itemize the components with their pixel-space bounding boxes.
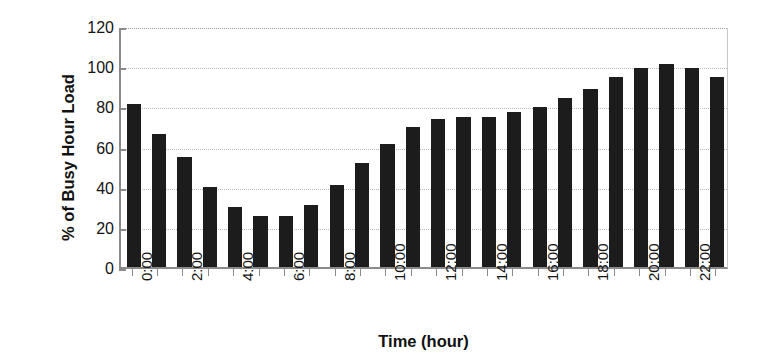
y-axis-tick-mark bbox=[119, 269, 126, 271]
bar bbox=[558, 98, 572, 267]
x-axis-tick-label: 18:00 bbox=[594, 243, 611, 281]
x-axis-tick-mark bbox=[259, 269, 260, 276]
bars-container bbox=[121, 28, 727, 267]
x-axis-tick-label: 4:00 bbox=[239, 252, 256, 281]
x-axis-tick-mark bbox=[360, 269, 361, 276]
y-axis-tick-label: 60 bbox=[62, 140, 114, 158]
x-axis-tick-mark bbox=[385, 269, 386, 276]
bar bbox=[634, 68, 648, 267]
x-axis-tick-mark bbox=[563, 269, 564, 276]
x-axis-tick-mark bbox=[639, 269, 640, 276]
x-axis-tick-mark bbox=[588, 269, 589, 276]
plot-area bbox=[119, 28, 728, 269]
x-axis-tick-mark bbox=[487, 269, 488, 276]
bar bbox=[583, 89, 597, 267]
x-axis-tick-mark bbox=[284, 269, 285, 276]
x-axis-tick-mark bbox=[309, 269, 310, 276]
bar bbox=[659, 64, 673, 267]
bar bbox=[710, 77, 724, 267]
x-axis-tick-label: 6:00 bbox=[290, 252, 307, 281]
bar bbox=[152, 134, 166, 267]
y-axis-tick-mark bbox=[119, 28, 126, 30]
x-axis-tick-mark bbox=[411, 269, 412, 276]
bar bbox=[127, 104, 141, 267]
x-axis-tick-label: 16:00 bbox=[544, 243, 561, 281]
x-axis-tick-mark bbox=[462, 269, 463, 276]
x-axis-tick-mark bbox=[132, 269, 133, 276]
x-axis-tick-mark bbox=[614, 269, 615, 276]
x-axis-tick-mark bbox=[665, 269, 666, 276]
y-axis-tick-label: 80 bbox=[62, 99, 114, 117]
x-axis-tick-mark bbox=[436, 269, 437, 276]
x-axis-title: Time (hour) bbox=[119, 332, 728, 351]
x-axis-tick-label: 22:00 bbox=[696, 243, 713, 281]
x-axis-tick-label: 8:00 bbox=[341, 252, 358, 281]
x-axis-tick-label: 14:00 bbox=[493, 243, 510, 281]
x-axis-tick-label: 12:00 bbox=[442, 243, 459, 281]
y-axis-tick-mark bbox=[119, 108, 126, 110]
x-axis-tick-mark bbox=[690, 269, 691, 276]
x-axis-tick-label: 2:00 bbox=[188, 252, 205, 281]
y-axis-tick-label: 40 bbox=[62, 180, 114, 198]
x-axis-tick-label: 10:00 bbox=[391, 243, 408, 281]
y-axis-tick-label: 100 bbox=[62, 59, 114, 77]
x-axis-tick-mark bbox=[715, 269, 716, 276]
x-axis-tick-mark bbox=[208, 269, 209, 276]
y-axis-tick-mark bbox=[119, 189, 126, 191]
y-axis-tick-labels: 020406080100120 bbox=[58, 28, 114, 269]
y-axis-tick-mark bbox=[119, 149, 126, 151]
x-axis-tick-mark bbox=[182, 269, 183, 276]
x-axis-tick-mark bbox=[157, 269, 158, 276]
bar bbox=[609, 77, 623, 267]
bar bbox=[177, 157, 191, 267]
y-axis-tick-label: 20 bbox=[62, 220, 114, 238]
y-axis-tick-mark bbox=[119, 68, 126, 70]
x-axis-tick-label: 0:00 bbox=[138, 252, 155, 281]
bar bbox=[685, 68, 699, 267]
bar-chart: % of Busy Hour Load 020406080100120 0:00… bbox=[0, 0, 765, 363]
x-axis-tick-mark bbox=[233, 269, 234, 276]
y-axis-tick-mark bbox=[119, 229, 126, 231]
x-axis-tick-mark bbox=[538, 269, 539, 276]
x-axis-tick-mark bbox=[512, 269, 513, 276]
x-axis-tick-mark bbox=[335, 269, 336, 276]
x-axis-tick-label: 20:00 bbox=[645, 243, 662, 281]
y-axis-tick-label: 120 bbox=[62, 19, 114, 37]
y-axis-tick-label: 0 bbox=[62, 260, 114, 278]
